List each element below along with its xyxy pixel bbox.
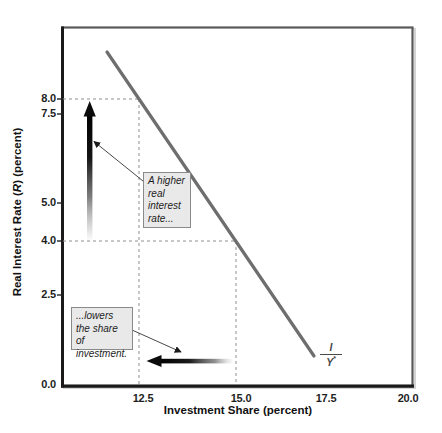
figure-investment-demand-chart: 8.0 7.5 5.0 4.0 2.5 0.0 12.5 15.0 17.5 2… (0, 0, 442, 433)
y-axis-title-post: ) (percent) (11, 128, 23, 184)
y-axis-title-var: R (11, 184, 23, 192)
callout-higher-rate: A higher real interest rate... (143, 172, 191, 228)
x-tick-label-20.0: 20.0 (398, 392, 419, 404)
y-tick-label-0.0: 0.0 (24, 378, 56, 390)
y-tick-label-8.0: 8.0 (24, 92, 56, 104)
x-axis-title: Investment Share (percent) (164, 404, 312, 416)
x-tick-label-12.5: 12.5 (133, 392, 154, 404)
y-tick-label-2.5: 2.5 (24, 288, 56, 300)
y-tick-label-4.0: 4.0 (24, 234, 56, 246)
fraction-denominator: Y* (320, 355, 342, 368)
plot-area (0, 0, 442, 433)
y-tick-label-5.0: 5.0 (24, 196, 56, 208)
y-axis-title-pre: Real Interest Rate ( (11, 192, 23, 296)
curve-label-fraction: I Y* (320, 341, 342, 368)
x-tick-label-15.0: 15.0 (231, 392, 252, 404)
y-axis-title: Real Interest Rate (R) (percent) (11, 128, 23, 297)
callout-lowers-share: ...lowers the share of investment. (71, 307, 133, 350)
fraction-denominator-star: * (333, 355, 336, 362)
y-tick-label-7.5: 7.5 (24, 107, 56, 119)
x-tick-label-17.5: 17.5 (316, 392, 337, 404)
fraction-numerator: I (320, 341, 342, 355)
